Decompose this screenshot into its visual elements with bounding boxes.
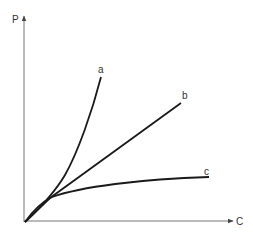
curve-a (25, 77, 101, 222)
curve-c (25, 177, 209, 222)
x-axis-label: C (236, 216, 243, 227)
curve-c-label: c (204, 166, 209, 177)
curve-b (25, 103, 181, 222)
y-axis-label: P (12, 14, 19, 25)
curve-a-label: a (98, 64, 104, 75)
pc-diagram: P C a b c (0, 0, 253, 235)
curve-b-label: b (182, 90, 188, 101)
